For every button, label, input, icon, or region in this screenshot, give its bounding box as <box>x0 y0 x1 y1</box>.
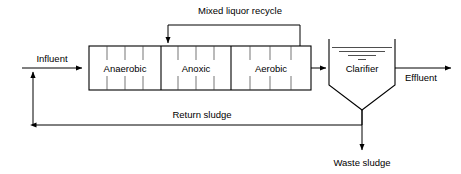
mixed-liquor-recycle-stream: Mixed liquor recycle <box>168 5 300 46</box>
return-sludge-up-arrowhead <box>30 72 35 78</box>
effluent-label: Effluent <box>405 72 437 83</box>
clarifier-outline <box>329 39 395 110</box>
clarifier-label: Clarifier <box>346 63 379 74</box>
process-flow-diagram: Anaerobic Anoxic Aerobic Clarifier Influ… <box>0 0 461 174</box>
clarifier-vessel: Clarifier <box>329 39 395 110</box>
mixed-liquor-recycle-label: Mixed liquor recycle <box>198 5 282 16</box>
effluent-stream: Effluent <box>395 68 451 83</box>
waste-sludge-stream: Waste sludge <box>333 110 390 168</box>
mixed-liquor-recycle-line <box>168 25 300 46</box>
reactor-tank: Anaerobic Anoxic Aerobic <box>89 46 311 90</box>
influent-stream: Influent <box>22 53 82 68</box>
return-sludge-label: Return sludge <box>172 109 231 120</box>
zone-label-aerobic: Aerobic <box>255 63 287 74</box>
influent-label: Influent <box>36 53 68 64</box>
zone-label-anaerobic: Anaerobic <box>104 63 147 74</box>
waste-sludge-label: Waste sludge <box>333 157 390 168</box>
diagram-canvas: Anaerobic Anoxic Aerobic Clarifier Influ… <box>0 0 461 174</box>
zone-label-anoxic: Anoxic <box>182 63 211 74</box>
